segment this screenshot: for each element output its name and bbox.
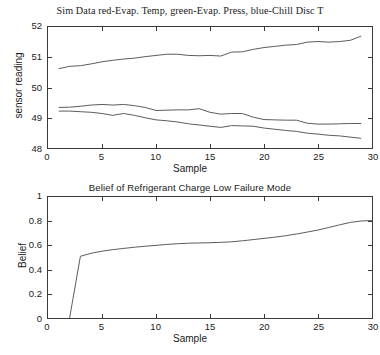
- x-tick-label: 10: [141, 322, 171, 332]
- series-line: [70, 221, 372, 318]
- x-tick-label: 25: [304, 322, 334, 332]
- x-tick-label: 10: [141, 152, 171, 162]
- series-line: [59, 111, 361, 138]
- x-tick-label: 5: [86, 322, 116, 332]
- x-tick-label: 15: [195, 152, 225, 162]
- x-tick-label: 15: [195, 322, 225, 332]
- figure-page: Sim Data red-Evap. Temp, green-Evap. Pre…: [0, 0, 380, 355]
- y-tick-label: 52: [0, 21, 46, 31]
- belief-chart: Belief of Refrigerant Charge Low Failure…: [0, 180, 380, 355]
- y-tick-label: 0.2: [0, 289, 46, 299]
- x-tick-label: 20: [249, 152, 279, 162]
- top-chart-title: Sim Data red-Evap. Temp, green-Evap. Pre…: [0, 5, 380, 17]
- x-tick-label: 5: [86, 152, 116, 162]
- top-plot-lines: [48, 27, 372, 148]
- bottom-chart-title: Belief of Refrigerant Charge Low Failure…: [0, 182, 380, 194]
- bottom-plot-lines: [48, 197, 372, 318]
- x-tick-label: 20: [249, 322, 279, 332]
- y-tick-label: 1: [0, 191, 46, 201]
- x-tick-label: 25: [304, 152, 334, 162]
- bottom-y-axis-label: Belief: [17, 231, 28, 281]
- top-plot-area: [47, 26, 373, 149]
- x-tick-label: 30: [358, 152, 380, 162]
- x-tick-label: 0: [32, 152, 62, 162]
- top-x-axis-label: Sample: [0, 163, 380, 174]
- sensor-reading-chart: Sim Data red-Evap. Temp, green-Evap. Pre…: [0, 0, 380, 180]
- series-line: [59, 36, 361, 69]
- bottom-x-axis-label: Sample: [0, 333, 380, 344]
- x-tick-label: 0: [32, 322, 62, 332]
- top-y-axis-label: sensor reading: [13, 36, 24, 136]
- y-tick-label: 0.8: [0, 216, 46, 226]
- bottom-plot-area: [47, 196, 373, 319]
- x-tick-label: 30: [358, 322, 380, 332]
